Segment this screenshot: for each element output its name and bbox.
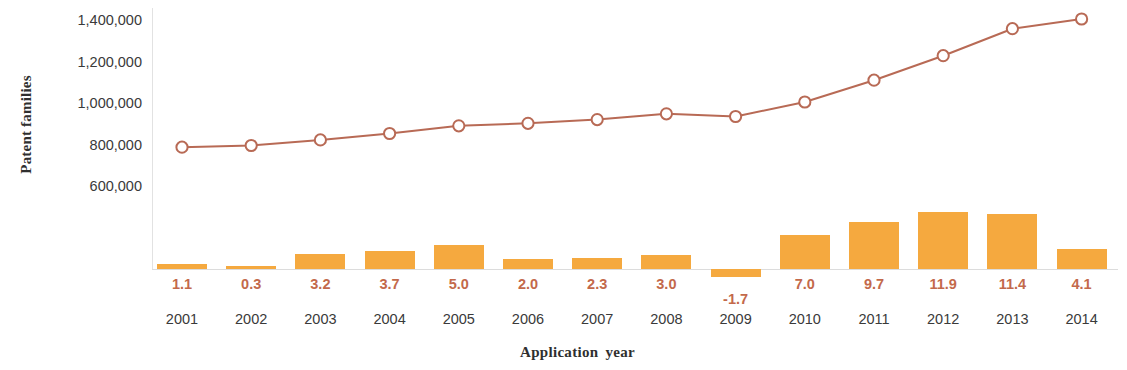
line-marker-2012 xyxy=(938,50,949,61)
bar-2004 xyxy=(365,251,415,269)
line-marker-2001 xyxy=(176,142,187,153)
x-tick-label-2006: 2006 xyxy=(488,312,568,327)
bar-2010 xyxy=(780,235,830,269)
y-tick-label: 1,000,000 xyxy=(32,96,142,111)
patent-families-chart: Patent families 600,000800,0001,000,0001… xyxy=(0,0,1127,370)
line-marker-2002 xyxy=(246,140,257,151)
bar-2011 xyxy=(849,222,899,269)
line-marker-2008 xyxy=(661,108,672,119)
x-tick-label-2004: 2004 xyxy=(350,312,430,327)
x-tick-label-2007: 2007 xyxy=(557,312,637,327)
line-path xyxy=(182,19,1082,147)
x-tick-label-2013: 2013 xyxy=(972,312,1052,327)
data-label-2002: 0.3 xyxy=(211,277,291,292)
data-label-2012: 11.9 xyxy=(903,277,983,292)
y-tick-label: 600,000 xyxy=(32,179,142,194)
x-tick-label-2009: 2009 xyxy=(696,312,776,327)
y-tick-label: 800,000 xyxy=(32,138,142,153)
x-tick-label-2011: 2011 xyxy=(834,312,914,327)
data-label-2001: 1.1 xyxy=(142,277,222,292)
line-marker-2007 xyxy=(592,114,603,125)
line-marker-2003 xyxy=(315,134,326,145)
y-tick-label: 1,400,000 xyxy=(32,13,142,28)
x-tick-label-2002: 2002 xyxy=(211,312,291,327)
y-axis-tick-labels: 600,000800,0001,000,0001,200,0001,400,00… xyxy=(30,0,142,370)
data-label-2014: 4.1 xyxy=(1042,277,1122,292)
data-label-2010: 7.0 xyxy=(765,277,845,292)
bar-2007 xyxy=(572,258,622,269)
data-label-2003: 3.2 xyxy=(280,277,360,292)
x-tick-label-2003: 2003 xyxy=(280,312,360,327)
bar-2008 xyxy=(641,255,691,269)
x-tick-label-2001: 2001 xyxy=(142,312,222,327)
line-marker-2013 xyxy=(1007,23,1018,34)
bar-2001 xyxy=(157,264,207,269)
data-label-2011: 9.7 xyxy=(834,277,914,292)
line-marker-2010 xyxy=(799,96,810,107)
x-axis-title-text: Application year xyxy=(492,344,635,361)
x-axis-title: Application year xyxy=(0,344,1127,361)
x-tick-label-2005: 2005 xyxy=(419,312,499,327)
bar-2005 xyxy=(434,245,484,269)
bar-2003 xyxy=(295,254,345,269)
x-tick-label-2010: 2010 xyxy=(765,312,845,327)
bar-2002 xyxy=(226,266,276,269)
data-label-2006: 2.0 xyxy=(488,277,568,292)
plot-area: 1.10.33.23.75.02.02.33.0-1.77.09.711.911… xyxy=(152,0,1127,370)
x-tick-label-2012: 2012 xyxy=(903,312,983,327)
x-tick-label-2014: 2014 xyxy=(1042,312,1122,327)
bar-2014 xyxy=(1057,249,1107,269)
data-label-2013: 11.4 xyxy=(972,277,1052,292)
data-label-2007: 2.3 xyxy=(557,277,637,292)
line-marker-2006 xyxy=(522,118,533,129)
bar-2009 xyxy=(711,269,761,277)
data-label-2008: 3.0 xyxy=(626,277,706,292)
line-marker-2011 xyxy=(868,75,879,86)
y-tick-label: 1,200,000 xyxy=(32,55,142,70)
line-marker-2014 xyxy=(1076,13,1087,24)
bar-2006 xyxy=(503,259,553,269)
line-marker-2005 xyxy=(453,120,464,131)
data-label-2005: 5.0 xyxy=(419,277,499,292)
bar-2012 xyxy=(918,212,968,269)
data-label-2004: 3.7 xyxy=(350,277,430,292)
x-tick-label-2008: 2008 xyxy=(626,312,706,327)
line-marker-2004 xyxy=(384,128,395,139)
line-marker-2009 xyxy=(730,111,741,122)
data-label-2009: -1.7 xyxy=(696,292,776,307)
bar-2013 xyxy=(987,214,1037,269)
